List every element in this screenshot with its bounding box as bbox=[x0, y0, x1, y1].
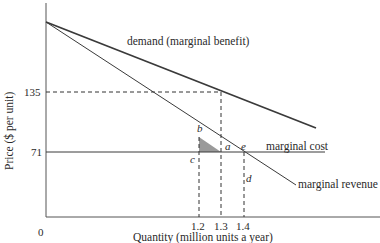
chart: 135 71 0 1.2 1.3 1.4 Quantity (million u… bbox=[0, 0, 380, 243]
marginal-cost-label: marginal cost bbox=[266, 140, 329, 153]
point-a-label: a bbox=[225, 140, 231, 152]
point-e-label: e bbox=[241, 140, 246, 152]
y-axis-title: Price ($ per unit) bbox=[3, 92, 16, 170]
x-axis-title: Quantity (million units a year) bbox=[133, 231, 273, 243]
y-tick-71: 71 bbox=[31, 146, 42, 158]
point-b-label: b bbox=[197, 122, 203, 134]
marginal-revenue-label: marginal revenue bbox=[298, 178, 378, 191]
y-tick-135: 135 bbox=[24, 86, 41, 98]
origin-label: 0 bbox=[38, 226, 44, 238]
demand-label: demand (marginal benefit) bbox=[127, 35, 250, 48]
shaded-deadweight-triangle bbox=[199, 137, 221, 152]
point-c-label: c bbox=[190, 153, 195, 165]
point-d-label: d bbox=[246, 172, 252, 184]
